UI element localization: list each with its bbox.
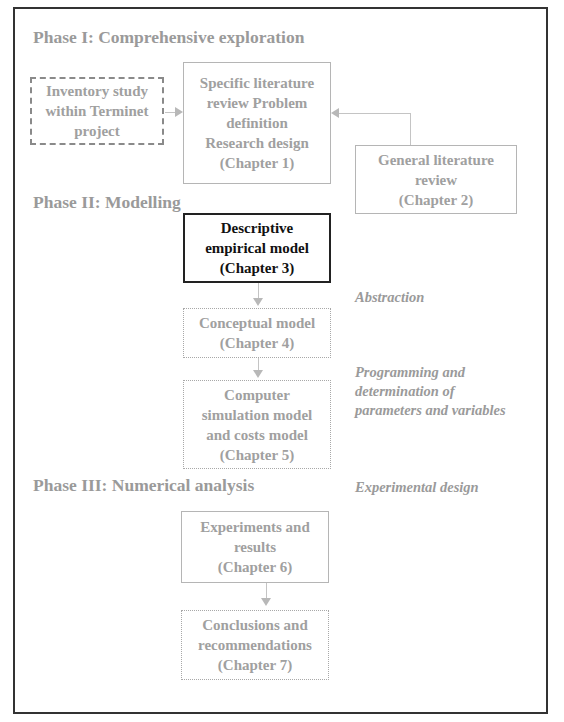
box-line: Conclusions and (202, 615, 307, 635)
note-line: Programming and (355, 363, 506, 382)
box-line: Experiments and (200, 517, 310, 537)
phase-2-title: Phase II: Modelling (33, 192, 181, 213)
box-line: Conceptual model (199, 313, 315, 333)
inventory-study-box: Inventory study within Terminet project (30, 77, 164, 145)
arrow-down-icon (261, 598, 271, 606)
box-line: Research design (205, 133, 308, 153)
connector-general-specific-v (410, 113, 411, 146)
conclusions-box: Conclusions and recommendations (Chapter… (181, 610, 329, 680)
box-line: (Chapter 4) (220, 333, 294, 353)
box-line: (Chapter 2) (399, 190, 473, 210)
box-line: definition (226, 113, 288, 133)
experiments-box: Experiments and results (Chapter 6) (181, 511, 329, 583)
connector-general-specific-h (338, 113, 410, 114)
note-line: determination of (355, 382, 506, 401)
arrow-down-icon (253, 298, 263, 306)
box-line: (Chapter 7) (218, 655, 292, 675)
note-experimental-design: Experimental design (355, 478, 479, 497)
phase-3-title: Phase III: Numerical analysis (33, 475, 254, 496)
general-literature-box: General literature review (Chapter 2) (355, 145, 517, 214)
arrow-right-icon (175, 107, 183, 117)
box-line: recommendations (198, 635, 312, 655)
box-line: within Terminet (46, 101, 149, 121)
descriptive-model-box: Descriptive empirical model (Chapter 3) (183, 213, 331, 283)
box-line: results (234, 537, 276, 557)
note-abstraction: Abstraction (355, 288, 424, 307)
box-line: simulation model (202, 405, 312, 425)
box-line: Computer (224, 385, 290, 405)
box-line: (Chapter 1) (220, 153, 294, 173)
box-line: General literature (378, 150, 494, 170)
box-line: project (74, 121, 120, 141)
box-line: review (415, 170, 457, 190)
conceptual-model-box: Conceptual model (Chapter 4) (183, 308, 331, 358)
box-line: Inventory study (46, 81, 148, 101)
arrow-left-icon (331, 108, 339, 118)
box-line: (Chapter 6) (218, 557, 292, 577)
phase-1-title: Phase I: Comprehensive exploration (33, 27, 304, 48)
specific-literature-box: Specific literature review Problem defin… (183, 62, 331, 184)
computer-simulation-box: Computer simulation model and costs mode… (183, 380, 331, 469)
note-line: parameters and variables (355, 401, 506, 420)
box-line: and costs model (206, 425, 308, 445)
box-line: (Chapter 3) (220, 258, 294, 278)
box-line: empirical model (205, 238, 309, 258)
note-programming: Programming and determination of paramet… (355, 363, 506, 420)
box-line: (Chapter 5) (220, 445, 294, 465)
box-line: Descriptive (221, 218, 293, 238)
box-line: review Problem (207, 93, 308, 113)
box-line: Specific literature (200, 73, 314, 93)
arrow-down-icon (253, 370, 263, 378)
